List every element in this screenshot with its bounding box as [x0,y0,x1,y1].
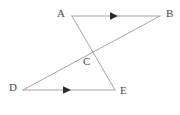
vertex-label-c: C [83,56,90,67]
vertex-label-d: D [9,82,17,93]
segment-ae [72,16,115,90]
arrow-marker-de [63,86,71,94]
arrow-marker-ab [110,12,118,20]
vertex-label-a: A [57,8,65,19]
segment-db [23,16,160,90]
vertex-label-b: B [166,8,173,19]
geometry-figure: A B C D E [0,0,180,115]
vertex-label-e: E [120,85,127,96]
segment-group [23,16,160,90]
